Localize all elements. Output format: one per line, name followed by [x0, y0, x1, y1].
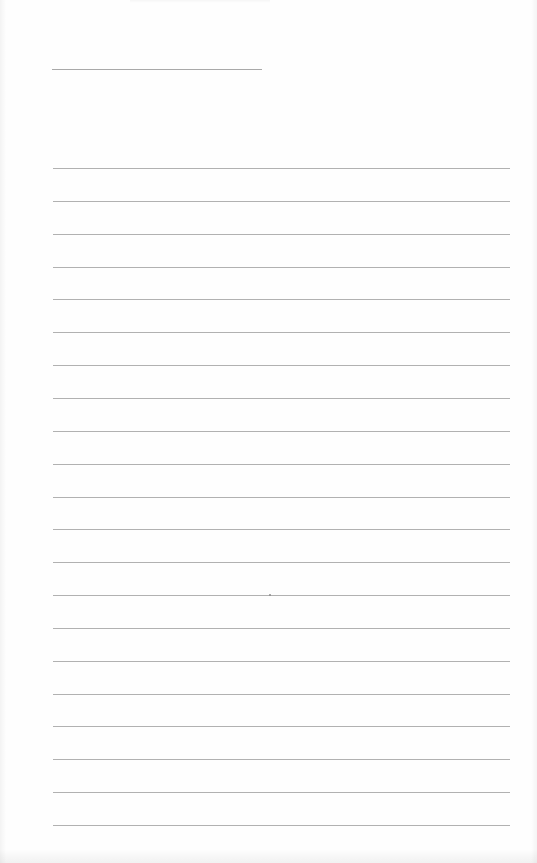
ruled-line: [53, 562, 510, 563]
ruled-line: [53, 661, 510, 662]
lined-page: [0, 0, 537, 863]
ruled-line: [53, 201, 510, 202]
scan-edge-top: [130, 0, 270, 3]
ruled-line: [53, 168, 510, 169]
ruled-line: [53, 792, 510, 793]
ruled-line: [53, 694, 510, 695]
ruled-line: [53, 332, 510, 333]
scan-edge-right: [531, 0, 537, 863]
scan-edge-bottom: [0, 849, 537, 863]
ruled-line: [53, 464, 510, 465]
ruled-line: [53, 497, 510, 498]
ruled-line: [53, 628, 510, 629]
ruled-line: [53, 759, 510, 760]
ruled-line: [53, 234, 510, 235]
ruled-line: [53, 299, 510, 300]
ruled-line: [53, 825, 510, 826]
ruled-line: [53, 398, 510, 399]
ruled-line: [53, 365, 510, 366]
ruled-line: [53, 726, 510, 727]
scan-edge-left: [0, 0, 6, 863]
ruled-line: [53, 595, 510, 596]
ruled-line: [53, 529, 510, 530]
ruled-line: [53, 267, 510, 268]
title-underline: [52, 69, 262, 70]
ruled-line: [53, 431, 510, 432]
scan-speck: [269, 594, 271, 596]
